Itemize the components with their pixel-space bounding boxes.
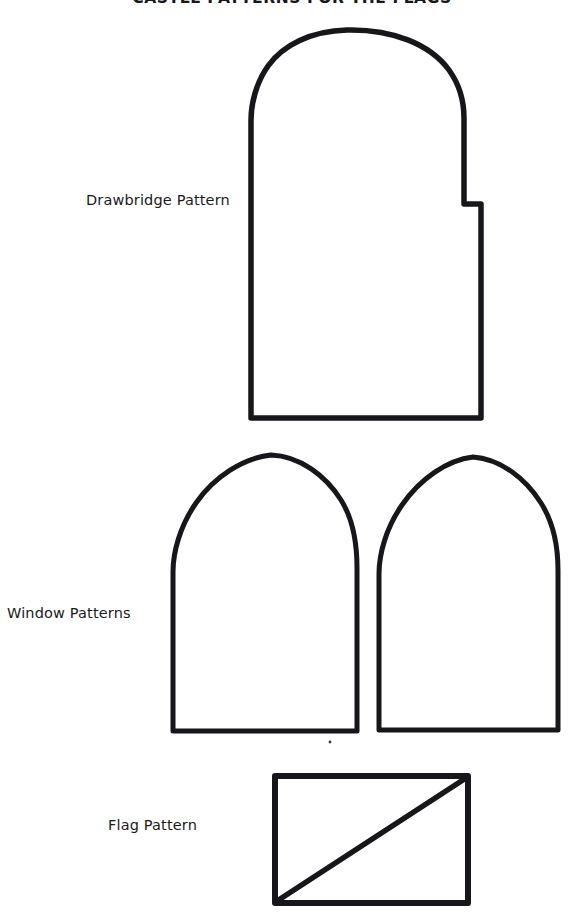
page-title: CASTLE PATTERNS FOR THE FLAGS [0, 0, 584, 5]
ink-speck [329, 741, 332, 744]
window-pattern-right-shape [379, 457, 558, 730]
pattern-artwork [0, 0, 584, 920]
window-pattern-left-shape [173, 455, 357, 731]
drawbridge-pattern-shape [251, 30, 481, 418]
window-patterns-label: Window Patterns [7, 605, 131, 621]
pattern-sheet-page: CASTLE PATTERNS FOR THE FLAGS Drawbridge… [0, 0, 584, 920]
flag-diagonal-line [277, 778, 466, 901]
flag-pattern-shape [275, 776, 468, 903]
flag-pattern-label: Flag Pattern [108, 817, 197, 833]
drawbridge-pattern-label: Drawbridge Pattern [86, 192, 230, 208]
